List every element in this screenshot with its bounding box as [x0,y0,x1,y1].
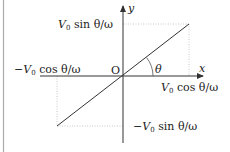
diagram-stage: y x O θ V0 sin θ/ω −V0 cos θ/ω V0 cos θ/… [0,0,230,152]
label-top-rest: sin θ/ω [70,18,113,31]
label-v0-cos-right: V0 cos θ/ω [161,82,218,95]
label-neg-v0-sin-bottom: −V0 sin θ/ω [133,121,197,134]
x-axis-label: x [199,63,205,74]
label-left-sign: − [14,63,23,76]
label-top-var: V [58,18,66,31]
angle-arc [147,58,153,76]
y-axis-label: y [128,3,134,14]
label-bottom-var: V [142,120,150,133]
label-left-rest: cos θ/ω [36,63,81,76]
label-right-var: V [161,81,169,94]
origin-label: O [111,65,120,76]
angle-label: θ [155,64,162,75]
label-v0-sin-top: V0 sin θ/ω [58,19,113,32]
label-bottom-rest: sin θ/ω [155,120,198,133]
label-neg-v0-cos-left: −V0 cos θ/ω [14,64,80,77]
label-left-var: V [23,63,31,76]
label-bottom-sign: − [133,120,142,133]
label-right-rest: cos θ/ω [173,81,218,94]
